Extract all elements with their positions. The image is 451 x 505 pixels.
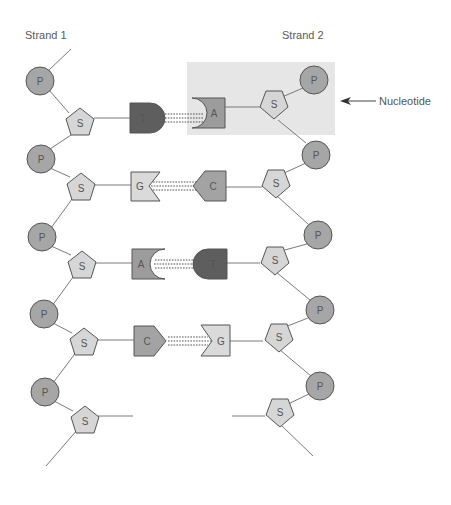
hydrogen-bonds [151,182,196,190]
phosphate: P [300,66,328,94]
strand1-label: Strand 1 [25,29,67,41]
svg-text:P: P [313,150,320,161]
svg-text:A: A [211,108,218,119]
nucleotide-label: Nucleotide [379,95,431,107]
base-T [130,103,165,133]
svg-text:S: S [273,178,280,189]
base-pair-4: C G [134,325,230,356]
phosphate: P [302,141,330,169]
sugar: S [265,324,293,352]
svg-text:S: S [82,416,89,427]
svg-text:T: T [140,113,146,124]
phosphate: P [306,296,334,324]
svg-text:S: S [79,261,86,272]
svg-text:P: P [315,230,322,241]
strand1-phosphates: P P P P P [26,67,59,406]
svg-text:P: P [38,154,45,165]
phosphate: P [304,221,332,249]
svg-text:P: P [311,75,318,86]
sugar: S [70,328,98,355]
phosphate: P [28,223,56,251]
phosphate: P [26,67,54,95]
base-pair-1: T A [130,98,225,133]
dna-diagram: Strand 1 Strand 2 Nucleotide [0,0,451,505]
base-pair-3: A T [132,249,227,279]
svg-text:P: P [37,76,44,87]
svg-text:S: S [277,407,284,418]
svg-text:C: C [143,336,150,347]
svg-text:S: S [272,255,279,266]
svg-text:P: P [39,232,46,243]
phosphate: P [30,300,58,328]
strand2-label: Strand 2 [282,29,324,41]
phosphate: P [31,378,59,406]
svg-text:S: S [81,338,88,349]
svg-text:P: P [42,387,49,398]
svg-text:C: C [209,181,216,192]
sugar: S [66,108,94,135]
svg-text:A: A [138,259,145,270]
sugar: S [266,399,294,427]
svg-text:S: S [271,99,278,110]
svg-text:S: S [276,332,283,343]
sugar: S [262,170,290,198]
strand2-sugars: S S S S S [260,91,294,427]
sugar: S [71,406,99,433]
sugar: S [68,251,96,278]
phosphate: P [306,372,334,400]
svg-text:G: G [136,181,144,192]
strand2-backbone [225,88,313,456]
svg-text:P: P [317,381,324,392]
svg-text:G: G [217,336,225,347]
svg-text:P: P [41,309,48,320]
phosphate: P [27,145,55,173]
svg-text:P: P [317,305,324,316]
sugar: S [261,247,289,275]
sugar: S [67,173,95,200]
svg-text:S: S [77,118,84,129]
nucleotide-pointer: Nucleotide [340,95,431,107]
strand1-sugars: S S S S S [66,108,99,433]
base-pair-2: G C [131,171,226,201]
hydrogen-bonds [154,260,196,268]
svg-text:S: S [78,183,85,194]
svg-text:T: T [210,259,216,270]
hydrogen-bonds [168,337,211,345]
